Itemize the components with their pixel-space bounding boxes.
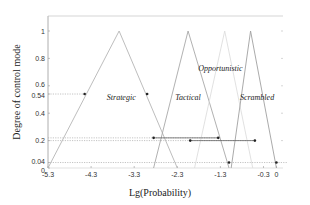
y-tick-label: 0.6	[35, 81, 45, 88]
dotted-guides	[48, 94, 287, 163]
x-axis-title: Lg(Probability)	[129, 187, 191, 199]
mode-labels: StrategicTacticalOpportunisticScrambled	[107, 64, 275, 102]
y-axis-title: Degree of control mode	[11, 44, 22, 140]
label-tactical: Tactical	[175, 93, 201, 102]
x-tick-label: -4.3	[85, 171, 97, 178]
solid-segments	[154, 138, 255, 141]
marker-point	[254, 139, 257, 142]
label-opportunistic: Opportunistic	[198, 64, 243, 73]
x-tick-label: -1.3	[214, 171, 226, 178]
y-tick-label: 0	[41, 167, 45, 174]
label-strategic: Strategic	[107, 93, 136, 102]
x-tick-label: 0	[274, 171, 278, 178]
x-tick-label: -0.3	[257, 171, 269, 178]
marker-points	[83, 93, 277, 164]
label-scrambled: Scrambled	[240, 93, 275, 102]
marker-point	[228, 161, 231, 164]
x-tick-label: -2.3	[171, 171, 183, 178]
y-tick-label: 0.54	[31, 92, 45, 99]
y-tick-label: 0.8	[35, 55, 45, 62]
marker-point	[146, 93, 149, 96]
fuzzy-membership-chart: -5.3-4.3-3.3-2.3-1.3-0.3000.040.20.40.54…	[0, 0, 310, 205]
marker-point	[83, 93, 86, 96]
y-tick-label: 0.04	[31, 158, 45, 165]
x-tick-label: -3.3	[128, 171, 140, 178]
y-tick-label: 1	[41, 28, 45, 35]
marker-point	[152, 137, 155, 140]
marker-point	[275, 161, 278, 164]
y-tick-label: 0.4	[35, 110, 45, 117]
marker-point	[189, 139, 192, 142]
marker-point	[217, 137, 220, 140]
y-tick-label: 0.2	[35, 137, 45, 144]
